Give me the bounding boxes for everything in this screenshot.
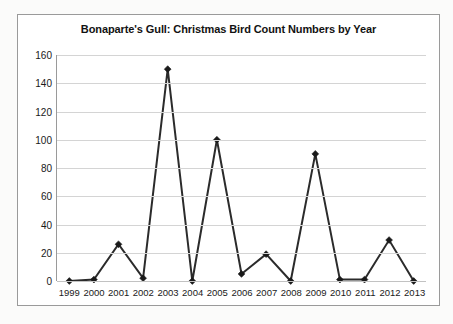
x-axis-tick-label: 2011 <box>355 287 375 298</box>
x-axis-tick-label: 2004 <box>182 287 203 298</box>
y-axis-tick-label: 100 <box>18 134 52 145</box>
x-axis-tick-label: 2000 <box>83 287 104 298</box>
gridline <box>57 168 426 169</box>
x-axis-tick-label: 2010 <box>330 287 351 298</box>
y-axis-tick-label: 160 <box>18 50 52 61</box>
x-axis-tick-label: 2002 <box>133 287 154 298</box>
y-axis-tick-label: 40 <box>18 219 52 230</box>
x-axis-tick-label: 2007 <box>256 287 277 298</box>
y-axis-tick-label: 0 <box>18 276 52 287</box>
data-point-marker <box>164 66 171 73</box>
plot-area: 0204060801001201401601999200020012002200… <box>56 55 426 281</box>
y-axis-tick-label: 60 <box>18 191 52 202</box>
series-line <box>69 69 413 281</box>
gridline <box>57 281 426 282</box>
x-axis-tick-label: 2005 <box>207 287 228 298</box>
y-axis-tick-label: 80 <box>18 163 52 174</box>
x-axis-tick-label: 2013 <box>404 287 425 298</box>
y-axis-tick-label: 120 <box>18 106 52 117</box>
gridline <box>57 140 426 141</box>
gridline <box>57 225 426 226</box>
plot-wrapper: 0204060801001201401601999200020012002200… <box>18 15 441 307</box>
data-point-marker <box>312 150 319 157</box>
x-axis-tick-label: 2003 <box>157 287 178 298</box>
page-background: Bonaparte's Gull: Christmas Bird Count N… <box>0 0 453 324</box>
x-axis-tick-label: 2012 <box>379 287 400 298</box>
x-axis-tick-label: 2006 <box>231 287 252 298</box>
gridline <box>57 83 426 84</box>
gridline <box>57 55 426 56</box>
gridline <box>57 112 426 113</box>
chart-frame: Bonaparte's Gull: Christmas Bird Count N… <box>17 14 440 306</box>
gridline <box>57 253 426 254</box>
x-axis-tick-label: 2001 <box>108 287 129 298</box>
x-axis-tick-label: 1999 <box>59 287 80 298</box>
y-axis-tick-label: 140 <box>18 78 52 89</box>
gridline <box>57 196 426 197</box>
x-axis-tick-label: 2008 <box>281 287 302 298</box>
x-axis-tick-label: 2009 <box>305 287 326 298</box>
y-axis-tick-label: 20 <box>18 247 52 258</box>
